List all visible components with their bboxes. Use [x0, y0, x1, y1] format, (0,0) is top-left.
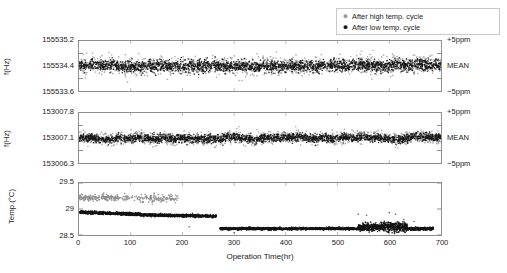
x-tick-200: 200: [176, 238, 189, 248]
legend: ● After high temp. cycle ● After low tem…: [336, 8, 500, 35]
y-axis-title-top: f(Hz): [2, 47, 11, 87]
figure-root: ● After high temp. cycle ● After low tem…: [0, 0, 507, 273]
series-low-temp-top: [79, 56, 441, 76]
legend-item-high: ● After high temp. cycle: [341, 11, 496, 22]
plot-area-top: [79, 41, 441, 91]
y-tick-bot-0: 29.5: [59, 178, 74, 186]
legend-item-low: ● After low temp. cycle: [341, 22, 496, 33]
y-tick-labels-top: 155535.2 155534.4 155533.6: [14, 40, 74, 92]
y-tick-bot-1: 29: [66, 205, 74, 213]
series-low-temp-bottom: [79, 210, 434, 234]
x-tick-500: 500: [332, 238, 345, 248]
y-tick-mid-0: 153007.8: [42, 108, 74, 116]
y-tick-mid-2: 153006.3: [42, 160, 74, 168]
plot-panel-frequency-155534: [78, 40, 442, 92]
right-label-mid-plus: +5ppm: [447, 108, 470, 116]
plot-panel-frequency-153007: [78, 112, 442, 164]
right-labels-middle: +5ppm MEAN −5ppm: [447, 112, 505, 164]
x-tick-300: 300: [228, 238, 241, 248]
y-tick-bot-2: 28.5: [59, 232, 74, 240]
right-labels-top: +5ppm MEAN −5ppm: [447, 40, 505, 92]
right-label-top-minus: −5ppm: [447, 88, 470, 96]
legend-label-low: After low temp. cycle: [352, 23, 420, 32]
x-tick-labels: 0 100 200 300 400 500 600 700: [78, 238, 442, 249]
y-tick-mid-1: 153007.1: [42, 134, 74, 142]
right-label-mid-mean: MEAN: [447, 134, 469, 142]
plot-area-middle: [79, 113, 441, 163]
y-tick-labels-middle: 153007.8 153007.1 153006.3: [14, 112, 74, 164]
x-tick-400: 400: [280, 238, 293, 248]
right-label-top-mean: MEAN: [447, 62, 469, 70]
right-label-mid-minus: −5ppm: [447, 160, 470, 168]
x-tick-100: 100: [124, 238, 137, 248]
legend-label-high: After high temp. cycle: [352, 12, 423, 21]
y-tick-top-2: 155533.6: [42, 88, 74, 96]
dot-icon-high: ●: [341, 12, 350, 21]
plot-panel-temperature: [78, 182, 442, 236]
y-axis-title-middle: f(Hz): [2, 119, 11, 159]
x-tick-600: 600: [384, 238, 397, 248]
right-label-top-plus: +5ppm: [447, 36, 470, 44]
plot-area-bottom: [79, 183, 441, 235]
x-tick-700: 700: [436, 238, 449, 248]
dot-icon-low: ●: [341, 23, 350, 32]
y-tick-labels-bottom: 29.5 29 28.5: [14, 182, 74, 236]
y-tick-top-0: 155535.2: [42, 36, 74, 44]
x-axis-title: Operation Time(hr): [78, 252, 442, 261]
x-tick-0: 0: [76, 238, 80, 248]
y-tick-top-1: 155534.4: [42, 62, 74, 70]
series-high-temp-bottom: [79, 192, 179, 205]
y-axis-title-bottom: Temp.(°C): [7, 182, 16, 232]
